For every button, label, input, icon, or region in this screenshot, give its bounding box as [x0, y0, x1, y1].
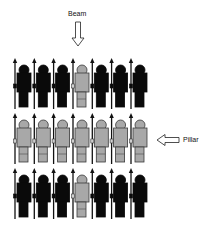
soldier-dark-icon	[13, 168, 31, 219]
pillar-arrow-icon	[157, 135, 179, 146]
soldier-grid	[13, 58, 147, 219]
soldier-light-icon	[109, 113, 127, 164]
soldier-dark-icon	[109, 58, 127, 109]
soldier-dark-icon	[129, 168, 147, 219]
soldier-dark-icon	[90, 58, 108, 109]
soldier-light-icon	[51, 113, 69, 164]
formation-diagram	[0, 0, 213, 227]
soldier-dark-icon	[13, 58, 31, 109]
soldier-light-icon	[90, 113, 108, 164]
soldier-light-icon	[13, 113, 31, 164]
soldier-dark-icon	[32, 168, 50, 219]
soldier-dark-icon	[32, 58, 50, 109]
beam-arrow-icon	[72, 22, 84, 46]
soldier-dark-icon	[129, 58, 147, 109]
soldier-light-icon	[32, 113, 50, 164]
soldier-dark-icon	[90, 168, 108, 219]
soldier-dark-icon	[109, 168, 127, 219]
soldier-light-icon	[71, 58, 89, 109]
soldier-light-icon	[129, 113, 147, 164]
soldier-dark-icon	[51, 168, 69, 219]
soldier-dark-icon	[51, 58, 69, 109]
soldier-light-icon	[71, 113, 89, 164]
soldier-light-icon	[71, 168, 89, 219]
